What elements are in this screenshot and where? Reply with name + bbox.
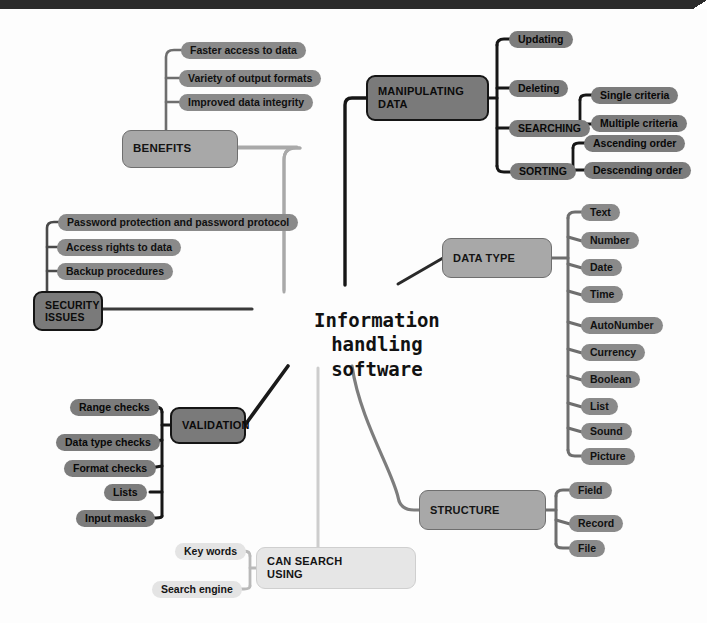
- leaf-label: Data type checks: [65, 436, 151, 448]
- center-line-2: handling: [331, 333, 423, 355]
- leaf-text[interactable]: Text: [581, 204, 620, 221]
- leaf-label: Backup procedures: [66, 265, 164, 277]
- center-line-3: software: [331, 358, 423, 380]
- leaf-input-masks[interactable]: Input masks: [76, 510, 155, 527]
- leaf-label: Lists: [113, 486, 138, 498]
- leaf-label: Key words: [184, 545, 237, 557]
- branch-security-label-1: SECURITY: [45, 299, 100, 311]
- leaf-label: Field: [578, 484, 603, 496]
- leaf-backup-procedures[interactable]: Backup procedures: [57, 263, 173, 280]
- leaf-access-rights-to-data[interactable]: Access rights to data: [57, 239, 181, 256]
- leaf-record[interactable]: Record: [569, 515, 623, 532]
- branch-security-label-2: ISSUES: [45, 311, 85, 323]
- leaf-label: Currency: [590, 346, 636, 358]
- leaf-boolean[interactable]: Boolean: [581, 371, 640, 388]
- leaf-searching[interactable]: SEARCHING: [509, 120, 590, 137]
- branch-structure-label: STRUCTURE: [430, 504, 500, 517]
- leaf-label: Input masks: [85, 512, 146, 524]
- link-security-children: [47, 222, 60, 293]
- leaf-list[interactable]: List: [581, 398, 618, 415]
- leaf-range-checks[interactable]: Range checks: [70, 399, 159, 416]
- branch-structure[interactable]: STRUCTURE: [419, 490, 546, 530]
- top-decorative-bar: [0, 0, 707, 9]
- branch-can-search-using[interactable]: CAN SEARCH USING: [256, 547, 416, 589]
- leaf-date[interactable]: Date: [581, 259, 622, 276]
- leaf-label: Updating: [518, 33, 564, 45]
- leaf-label: Descending order: [593, 164, 682, 176]
- leaf-label: Faster access to data: [190, 44, 297, 56]
- leaf-label: Time: [590, 288, 614, 300]
- leaf-label: Multiple criteria: [600, 117, 678, 129]
- leaf-number[interactable]: Number: [581, 232, 639, 249]
- leaf-password-protection[interactable]: Password protection and password protoco…: [58, 214, 298, 231]
- center-topic: Information handling software: [264, 283, 444, 406]
- leaf-autonumber[interactable]: AutoNumber: [581, 317, 663, 334]
- leaf-label: Format checks: [73, 462, 147, 474]
- leaf-descending-order[interactable]: Descending order: [584, 162, 691, 179]
- branch-cansearch-label-2: USING: [267, 568, 303, 581]
- leaf-ascending-order[interactable]: Ascending order: [584, 135, 685, 152]
- leaf-label: Ascending order: [593, 137, 676, 149]
- branch-security-issues[interactable]: SECURITY ISSUES: [33, 291, 103, 331]
- mindmap-canvas: Information handling software BENEFITS F…: [0, 0, 707, 623]
- branch-data-type[interactable]: DATA TYPE: [442, 238, 552, 278]
- leaf-currency[interactable]: Currency: [581, 344, 645, 361]
- leaf-label: Date: [590, 261, 613, 273]
- leaf-label: SEARCHING: [518, 122, 581, 134]
- leaf-label: Search engine: [161, 583, 233, 595]
- leaf-label: Range checks: [79, 401, 150, 413]
- leaf-label: List: [590, 400, 609, 412]
- leaf-label: AutoNumber: [590, 319, 654, 331]
- leaf-label: Boolean: [590, 373, 631, 385]
- center-line-1: Information: [314, 309, 440, 331]
- leaf-multiple-criteria[interactable]: Multiple criteria: [591, 115, 687, 132]
- leaf-sound[interactable]: Sound: [581, 423, 632, 440]
- leaf-deleting[interactable]: Deleting: [509, 80, 568, 97]
- leaf-label: Variety of output formats: [188, 72, 312, 84]
- leaf-label: Access rights to data: [66, 241, 172, 253]
- leaf-updating[interactable]: Updating: [509, 31, 573, 48]
- leaf-label: Deleting: [518, 82, 559, 94]
- leaf-label: Number: [590, 234, 630, 246]
- branch-benefits[interactable]: BENEFITS: [122, 130, 238, 168]
- leaf-field[interactable]: Field: [569, 482, 612, 499]
- branch-benefits-label: BENEFITS: [133, 142, 191, 156]
- leaf-faster-access-to-data[interactable]: Faster access to data: [181, 42, 306, 59]
- leaf-improved-data-integrity[interactable]: Improved data integrity: [179, 94, 313, 111]
- leaf-label: Sound: [590, 425, 623, 437]
- leaf-label: File: [578, 542, 596, 554]
- leaf-format-checks[interactable]: Format checks: [64, 460, 156, 477]
- leaf-key-words[interactable]: Key words: [175, 543, 246, 560]
- leaf-file[interactable]: File: [569, 540, 605, 557]
- leaf-sorting[interactable]: SORTING: [510, 163, 576, 180]
- leaf-variety-of-output-formats[interactable]: Variety of output formats: [179, 70, 321, 87]
- leaf-label: Text: [590, 206, 611, 218]
- branch-manipulating-label-2: DATA: [378, 98, 408, 111]
- branch-cansearch-label-1: CAN SEARCH: [267, 555, 342, 568]
- leaf-label: Single criteria: [600, 89, 669, 101]
- leaf-search-engine[interactable]: Search engine: [152, 581, 242, 598]
- leaf-label: Record: [578, 517, 614, 529]
- link-benefits-children: [166, 50, 182, 135]
- branch-validation-label: VALIDATION: [182, 419, 250, 432]
- leaf-label: Improved data integrity: [188, 96, 304, 108]
- leaf-label: SORTING: [519, 165, 567, 177]
- branch-validation[interactable]: VALIDATION: [170, 407, 246, 444]
- leaf-lists[interactable]: Lists: [104, 484, 147, 501]
- link-center-datatype: [398, 258, 443, 284]
- leaf-label: Picture: [590, 450, 626, 462]
- link-center-manipulating: [345, 98, 366, 285]
- branch-data-type-label: DATA TYPE: [453, 252, 515, 265]
- leaf-single-criteria[interactable]: Single criteria: [591, 87, 678, 104]
- leaf-picture[interactable]: Picture: [581, 448, 635, 465]
- branch-manipulating-data[interactable]: MANIPULATING DATA: [366, 75, 489, 121]
- leaf-label: Password protection and password protoco…: [67, 216, 289, 228]
- branch-manipulating-label-1: MANIPULATING: [378, 85, 464, 98]
- leaf-time[interactable]: Time: [581, 286, 623, 303]
- leaf-data-type-checks[interactable]: Data type checks: [56, 434, 160, 451]
